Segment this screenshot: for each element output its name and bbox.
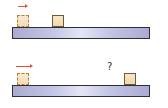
velocity-arrow-icon <box>18 6 26 7</box>
board <box>12 27 150 39</box>
board <box>12 85 150 97</box>
ghost-block <box>17 73 29 85</box>
block <box>52 15 64 27</box>
question-mark: ? <box>107 62 112 72</box>
panel-final: ? <box>0 54 168 108</box>
panel-initial <box>0 0 168 54</box>
ghost-block <box>17 15 29 27</box>
block <box>124 73 136 85</box>
velocity-arrow-icon <box>16 66 31 67</box>
